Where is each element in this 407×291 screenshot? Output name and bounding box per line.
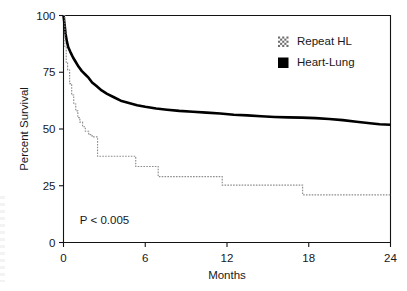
x-tick-label: 6 xyxy=(142,252,148,264)
x-tick-label: 0 xyxy=(60,252,66,264)
legend-item: Repeat HL xyxy=(278,35,353,47)
y-tick-label: 50 xyxy=(43,123,56,135)
survival-plot: 025507510006121824MonthsPercent Survival… xyxy=(0,0,407,291)
legend-label: Heart-Lung xyxy=(297,56,355,68)
x-tick-label: 18 xyxy=(302,252,315,264)
legend-swatch-heart-lung xyxy=(278,58,289,69)
legend-label: Repeat HL xyxy=(297,35,353,47)
x-tick-label: 24 xyxy=(384,252,397,264)
legend-swatch-repeat-hl xyxy=(278,37,289,48)
y-tick-label: 100 xyxy=(36,10,55,22)
plot-frame xyxy=(64,16,391,243)
y-tick-label: 75 xyxy=(43,66,56,78)
x-tick-label: 12 xyxy=(221,252,234,264)
legend-item: Heart-Lung xyxy=(278,56,355,68)
p-value-annotation: P < 0.005 xyxy=(80,214,129,226)
x-axis-title: Months xyxy=(208,269,246,281)
series-line-heart-lung xyxy=(64,16,391,125)
y-tick-label: 25 xyxy=(43,180,56,192)
survival-chart-figure: 025507510006121824MonthsPercent Survival… xyxy=(0,0,407,291)
y-tick-label: 0 xyxy=(49,237,55,249)
y-axis-title: Percent Survival xyxy=(18,87,30,171)
